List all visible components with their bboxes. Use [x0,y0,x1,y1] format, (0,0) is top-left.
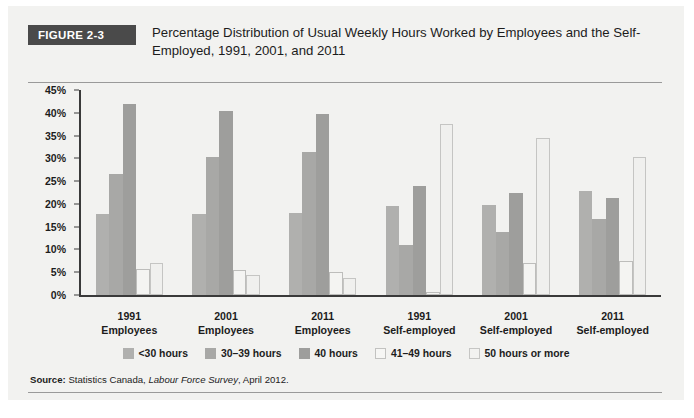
y-axis-tick-label: 0% [51,289,66,301]
x-axis-group-label: 2001Employees [178,309,275,337]
bar [136,269,150,295]
bar-group [178,90,275,295]
legend-label: 41–49 hours [391,348,452,359]
bar [509,193,523,296]
bar [150,263,164,295]
x-axis-year: 2001 [214,310,238,322]
x-axis-group-label: 2001Self-employed [468,309,565,337]
legend-label: 50 hours or more [485,348,570,359]
y-axis-tick-label: 10% [45,243,66,255]
bar [302,152,316,296]
legend-item[interactable]: 30–39 hours [205,348,282,359]
bar-groups [81,90,661,295]
bar [206,157,220,295]
bar [606,198,620,295]
x-axis-year: 2011 [311,310,334,322]
bar [413,186,427,295]
x-axis-year: 2011 [601,310,624,322]
legend-swatch-icon [299,348,310,359]
x-axis-class: Employees [178,323,275,337]
bar [536,138,550,295]
bar-group [564,90,661,295]
legend-swatch-icon [205,348,216,359]
bar [219,111,233,295]
bar [329,272,343,295]
x-axis-class: Employees [81,323,178,337]
bar [289,213,303,295]
bar [496,232,510,295]
y-axis-tick-label: 20% [45,198,66,210]
legend-swatch-icon [123,348,134,359]
y-axis-tick-label: 35% [45,130,66,142]
bar [123,104,137,295]
legend-swatch-icon [469,348,480,359]
source-date: , April 2012. [238,374,289,385]
y-axis-labels: 0%5%10%15%20%25%30%35%40%45% [28,90,74,295]
figure-number-badge: FIGURE 2-3 [28,25,136,45]
legend-item[interactable]: 50 hours or more [469,348,570,359]
y-axis-tick-label: 45% [45,84,66,96]
bar [233,270,247,295]
y-axis-tick-label: 30% [45,152,66,164]
figure-header: FIGURE 2-3 Percentage Distribution of Us… [28,24,666,72]
y-axis-tick-label: 25% [45,175,66,187]
x-axis-class: Self-employed [371,323,468,337]
bar-group [371,90,468,295]
x-axis-year: 2001 [504,310,528,322]
x-axis-group-label: 2011Employees [274,309,371,337]
bar-group [274,90,371,295]
legend-label: <30 hours [139,348,188,359]
bar [246,275,260,296]
x-axis-class: Self-employed [564,323,661,337]
source-note: Source: Statistics Canada, Labour Force … [30,374,289,385]
legend-item[interactable]: <30 hours [123,348,188,359]
y-axis-tick-label: 5% [51,266,66,278]
x-axis-year: 1991 [408,310,432,322]
legend-item[interactable]: 40 hours [299,348,358,359]
bar [440,124,454,295]
bar [592,219,606,295]
x-axis-group-label: 1991Employees [81,309,178,337]
source-publication: Labour Force Survey [148,374,238,385]
x-axis-labels: 1991Employees2001Employees2011Employees1… [81,309,661,337]
bar [399,245,413,295]
legend-label: 40 hours [315,348,358,359]
x-axis-class: Employees [274,323,371,337]
chart-legend: <30 hours30–39 hours40 hours41–49 hours5… [28,348,664,359]
bar [386,206,400,295]
y-axis-tick-label: 15% [45,221,66,233]
x-axis-line [79,295,661,297]
footer-divider [28,392,662,393]
legend-swatch-icon [375,348,386,359]
bar [482,205,496,295]
bar [109,174,123,295]
legend-item[interactable]: 41–49 hours [375,348,452,359]
bar [619,261,633,295]
figure-card: FIGURE 2-3 Percentage Distribution of Us… [8,6,684,400]
source-text: Statistics Canada, [68,374,145,385]
header-divider [28,82,662,83]
bar [633,157,647,295]
chart-plot-area: 0%5%10%15%20%25%30%35%40%45% [28,90,664,305]
bar [343,278,357,295]
x-axis-group-label: 1991Self-employed [371,309,468,337]
bar-group [468,90,565,295]
bar [426,292,440,295]
bar [316,114,330,295]
page-title: Percentage Distribution of Usual Weekly … [152,24,652,60]
bar [96,214,110,295]
x-axis-group-label: 2011Self-employed [564,309,661,337]
bar [192,214,206,295]
y-axis-tick-label: 40% [45,107,66,119]
bar-group [81,90,178,295]
legend-label: 30–39 hours [221,348,282,359]
x-axis-year: 1991 [118,310,142,322]
bar [523,263,537,295]
source-label: Source: [30,374,66,385]
x-axis-class: Self-employed [468,323,565,337]
bar [579,191,593,295]
